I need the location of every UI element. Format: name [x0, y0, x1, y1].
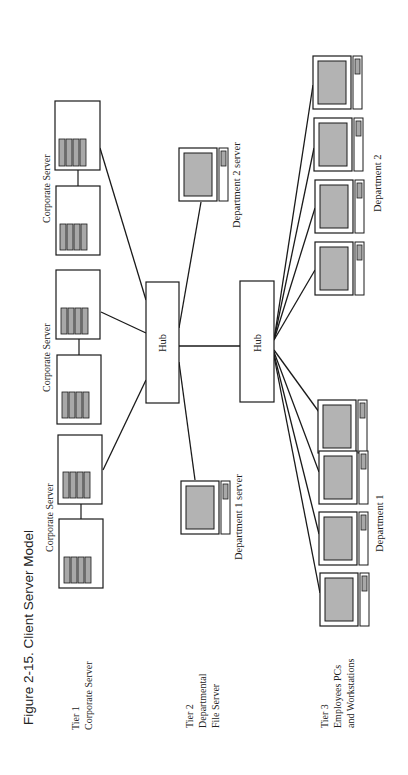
- hub-1: Hub: [146, 282, 179, 403]
- svg-text:Tier 1: Tier 1: [70, 706, 81, 730]
- corporate-server-label: Corporate Server: [44, 483, 55, 552]
- department-server-label: Department 1 server: [233, 474, 244, 560]
- desktop-computer-icon: [179, 148, 228, 201]
- pc-icon: [319, 451, 368, 504]
- corporate-server-group-2: Corporate Server: [41, 270, 101, 424]
- department-1-pcs: Department 1: [318, 400, 385, 626]
- hub-2: Hub: [240, 281, 274, 402]
- department-label: Department 2: [372, 155, 383, 212]
- svg-text:File Server: File Server: [210, 683, 221, 728]
- svg-text:Departmental: Departmental: [197, 673, 208, 728]
- department-1-server: Department 1 server: [181, 474, 244, 560]
- tier-2-label: Tier 2 Departmental File Server: [184, 673, 221, 728]
- department-2-pcs: Department 2: [313, 56, 383, 295]
- corporate-server-group-1: Corporate Server: [41, 101, 100, 255]
- pc-icon: [314, 118, 363, 171]
- pc-icon: [318, 400, 367, 453]
- pc-icon: [313, 56, 362, 109]
- department-server-label: Department 2 server: [231, 142, 242, 228]
- pc-icon: [315, 242, 364, 295]
- hub-label: Hub: [157, 334, 168, 352]
- pc-icon: [319, 512, 368, 565]
- tier-1-label: Tier 1 Corporate Server: [70, 661, 94, 730]
- pc-icon: [320, 573, 369, 626]
- client-server-diagram: Figure 2-15. Client Server Model Tier 1 …: [0, 0, 408, 775]
- corporate-server-label: Corporate Server: [41, 323, 52, 392]
- desktop-computer-icon: [181, 481, 230, 534]
- svg-text:Corporate Server: Corporate Server: [83, 661, 94, 730]
- svg-text:Employees PCs: Employees PCs: [332, 665, 343, 728]
- hub-label: Hub: [252, 334, 263, 352]
- department-2-server: Department 2 server: [179, 142, 242, 228]
- svg-text:and Workstations: and Workstations: [345, 659, 356, 728]
- svg-text:Tier 2: Tier 2: [184, 704, 195, 728]
- svg-text:Tier 3: Tier 3: [319, 704, 330, 728]
- corporate-server-label: Corporate Server: [41, 154, 52, 223]
- corporate-server-group-3: Corporate Server: [44, 435, 103, 588]
- pc-icon: [315, 180, 364, 233]
- tier-3-label: Tier 3 Employees PCs and Workstations: [319, 659, 356, 728]
- figure-title: Figure 2-15. Client Server Model: [21, 530, 36, 725]
- department-label: Department 1: [374, 495, 385, 552]
